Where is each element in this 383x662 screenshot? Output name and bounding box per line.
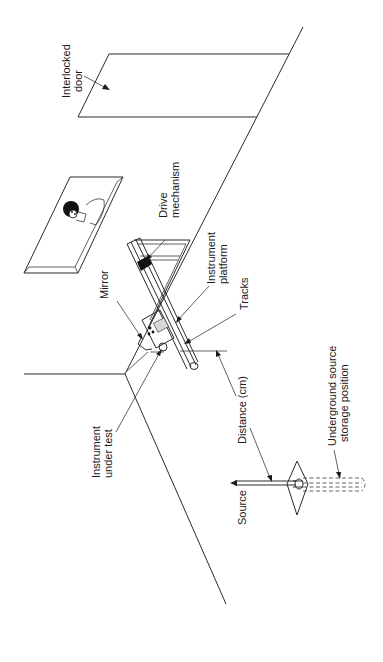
door-outline: [78, 54, 289, 117]
viewing-window: [24, 177, 123, 273]
window-inner: [29, 182, 117, 267]
mirror-label: Mirror: [98, 270, 110, 299]
source-label: Source: [236, 490, 248, 525]
source-assembly: [230, 450, 365, 515]
window-outer: [24, 177, 123, 273]
room-walls: [24, 27, 303, 604]
floor-wall-line: [125, 374, 226, 604]
track-end-cap: [190, 363, 198, 370]
back-wall-line: [125, 27, 303, 374]
source-tip: [230, 480, 237, 486]
interlocked-door-label: Interlocked door: [60, 41, 84, 98]
underground-storage-label: Underground source storage position: [326, 343, 350, 446]
diagram-svg: Interlocked door: [0, 0, 383, 662]
interlocked-door: [78, 54, 289, 117]
calibration-room-diagram: Interlocked door: [0, 0, 383, 662]
mirror: [138, 336, 152, 350]
instrument-platform-label: Instrument platform: [205, 229, 229, 284]
source-port-plate: [287, 461, 308, 515]
distance-label: Distance (cm): [236, 376, 248, 444]
tracks-label: Tracks: [238, 277, 250, 310]
instrument-under-test-label: Instrument under test: [90, 423, 114, 478]
track-rail: [127, 244, 187, 369]
operator-body: [86, 199, 104, 225]
drive-mechanism-label: Drive mechanism: [157, 162, 181, 218]
